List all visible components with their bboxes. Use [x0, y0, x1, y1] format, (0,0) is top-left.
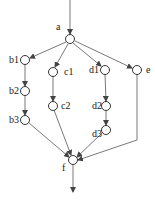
- node-label-b3: b3: [9, 114, 19, 125]
- node-c2: [49, 102, 58, 111]
- edge-d1-to-d2: [105, 74, 106, 101]
- node-b2: [21, 87, 30, 96]
- node-d2: [102, 102, 111, 111]
- node-d3: [102, 126, 111, 135]
- node-b3: [21, 116, 30, 125]
- node-label-f: f: [62, 162, 66, 173]
- node-label-d3: d3: [92, 128, 102, 139]
- edge-a-to-c1: [55, 44, 68, 67]
- node-label-a: a: [56, 21, 61, 32]
- node-label-c2: c2: [61, 100, 70, 111]
- node-b1: [21, 56, 30, 65]
- edge-a-to-e: [75, 41, 132, 68]
- node-label-d1: d1: [89, 64, 99, 75]
- node-label-b1: b1: [9, 54, 19, 65]
- edge-c2-to-f: [54, 110, 71, 155]
- node-d1: [101, 66, 110, 75]
- node-a: [66, 35, 75, 44]
- node-c1: [49, 68, 58, 77]
- node-label-b2: b2: [9, 85, 19, 96]
- edges-layer: [25, 0, 137, 192]
- edge-a-to-b1: [30, 42, 66, 58]
- edge-b3-to-f: [29, 123, 69, 157]
- node-f: [69, 156, 78, 165]
- node-label-d2: d2: [92, 100, 102, 111]
- node-e: [133, 66, 142, 75]
- node-label-e: e: [146, 64, 151, 75]
- node-label-c1: c1: [64, 66, 73, 77]
- control-flow-graph: ab1b2b3c1c2d1d2d3ef: [0, 0, 155, 202]
